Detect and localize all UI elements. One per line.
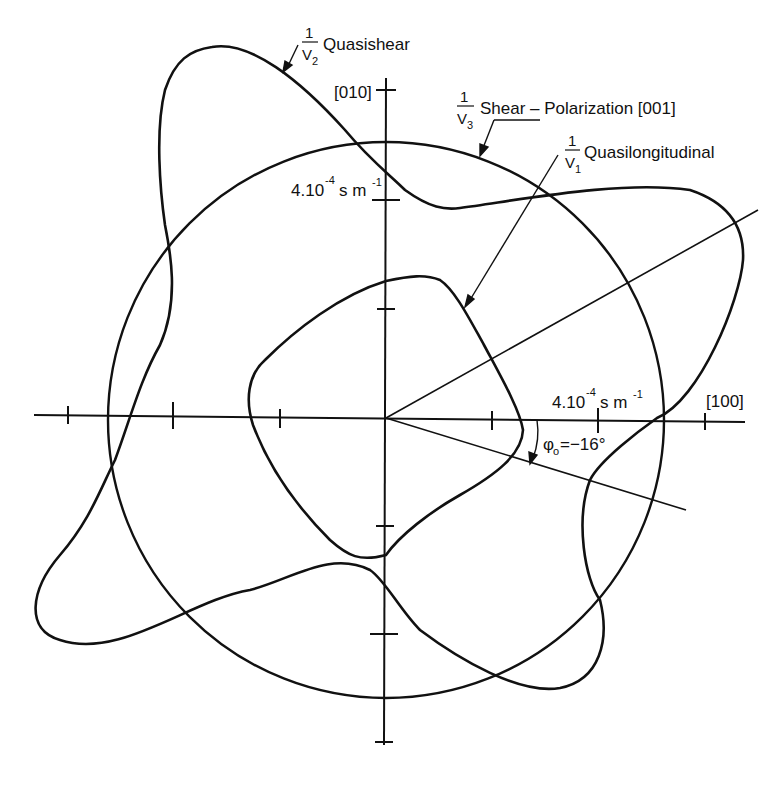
svg-text:4.10: 4.10 [552, 393, 585, 412]
y-scale-label: 4.10 -4 s m -1 [291, 174, 382, 200]
svg-text:1: 1 [305, 24, 313, 41]
svg-text:V: V [457, 110, 467, 127]
y-axis-label: [010] [334, 83, 372, 102]
svg-text:V: V [302, 46, 312, 63]
label-v2-quasishear: 1 V 2 Quasishear [302, 24, 410, 67]
svg-text:-1: -1 [372, 176, 382, 188]
label-v3-shear: 1 V 3 Shear – Polarization [001] [457, 88, 676, 131]
svg-text:s m: s m [600, 393, 627, 412]
svg-text:Quasishear: Quasishear [323, 35, 410, 54]
svg-text:-4: -4 [325, 174, 335, 186]
svg-text:1: 1 [568, 132, 576, 149]
ray-upper [386, 210, 758, 418]
svg-text:s m: s m [339, 181, 366, 200]
x-axis-label: [100] [706, 392, 744, 411]
y-axis [384, 78, 386, 745]
svg-text:3: 3 [467, 119, 473, 131]
label-v1-quasilongitudinal: 1 V 1 Quasilongitudinal [565, 132, 714, 175]
phi-angle-label: φ o =−16° [543, 435, 606, 457]
svg-text:V: V [565, 154, 575, 171]
svg-text:-4: -4 [586, 386, 596, 398]
svg-text:Shear – Polarization [001]: Shear – Polarization [001] [480, 99, 676, 118]
slowness-diagram: 1 V 2 Quasishear 1 V 3 Shear – Polarizat… [0, 0, 783, 808]
svg-text:=−16°: =−16° [560, 435, 606, 454]
svg-text:-1: -1 [633, 388, 643, 400]
svg-text:2: 2 [312, 55, 318, 67]
svg-text:1: 1 [460, 88, 468, 105]
axes [34, 78, 745, 745]
svg-text:o: o [553, 445, 559, 457]
svg-text:1: 1 [575, 163, 581, 175]
direction-rays [386, 210, 758, 510]
svg-text:Quasilongitudinal: Quasilongitudinal [584, 143, 714, 162]
ray-phi0 [386, 418, 686, 510]
svg-text:4.10: 4.10 [291, 181, 324, 200]
